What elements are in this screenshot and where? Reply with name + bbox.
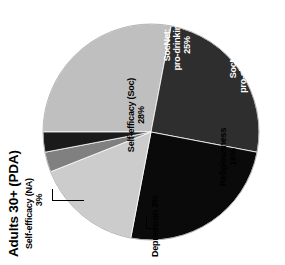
callout-label-self-efficacy-na: Self-efficacy (NA) 3%	[24, 129, 44, 249]
callout-label-text: Self-efficacy (NA)	[24, 178, 34, 249]
leader-line-depression-horizontal	[146, 216, 147, 229]
leader-line-self-efficacy-na-horizontal	[52, 189, 53, 201]
leader-line-self-efficacy-na-vertical	[52, 200, 84, 201]
callout-label-text: Depression 3%	[150, 195, 160, 257]
leader-line-depression-vertical	[146, 228, 157, 229]
page-title: Adults 30+ (PDA)	[6, 0, 21, 265]
pie-chart-figure: Adults 30+ (PDA) Self-efficacy (Soc) 28%…	[0, 0, 285, 265]
callout-label-depression: Depression 3%	[150, 195, 160, 257]
chart-stage: Adults 30+ (PDA) Self-efficacy (Soc) 28%…	[0, 0, 285, 265]
pie-slice[interactable]	[43, 24, 171, 132]
callout-label-percent: 3%	[34, 151, 44, 249]
